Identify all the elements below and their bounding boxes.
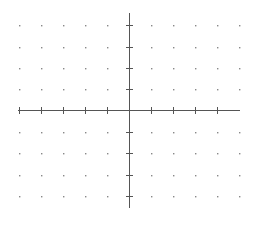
grid-dot bbox=[19, 153, 20, 154]
grid-dot bbox=[239, 89, 240, 90]
grid-dot bbox=[41, 89, 42, 90]
grid-dot bbox=[151, 196, 152, 197]
grid-dot bbox=[107, 47, 108, 48]
grid-dot bbox=[195, 196, 196, 197]
grid-dot bbox=[107, 196, 108, 197]
grid-dot bbox=[217, 175, 218, 176]
grid-dot bbox=[239, 153, 240, 154]
grid-dot bbox=[217, 89, 218, 90]
grid-dot bbox=[63, 153, 64, 154]
grid-dot bbox=[151, 25, 152, 26]
grid-dot bbox=[217, 47, 218, 48]
grid-dot bbox=[217, 132, 218, 133]
grid-dot bbox=[173, 196, 174, 197]
grid-dot bbox=[63, 89, 64, 90]
grid-dot bbox=[107, 89, 108, 90]
grid-dot bbox=[85, 132, 86, 133]
grid-dot bbox=[63, 132, 64, 133]
grid-dot bbox=[19, 132, 20, 133]
grid-dot bbox=[85, 89, 86, 90]
grid-dot bbox=[19, 175, 20, 176]
grid-dot bbox=[63, 196, 64, 197]
grid-dot bbox=[41, 25, 42, 26]
grid-dot bbox=[41, 132, 42, 133]
grid-dot bbox=[41, 47, 42, 48]
grid-dot bbox=[195, 153, 196, 154]
grid-dot bbox=[41, 153, 42, 154]
grid-dot bbox=[195, 132, 196, 133]
grid-dot bbox=[63, 47, 64, 48]
grid-dot bbox=[239, 175, 240, 176]
grid-dot bbox=[195, 47, 196, 48]
grid-dot bbox=[19, 89, 20, 90]
grid-dot bbox=[195, 89, 196, 90]
grid-dot bbox=[173, 68, 174, 69]
grid-dot bbox=[41, 68, 42, 69]
grid-dot bbox=[195, 175, 196, 176]
grid-dot bbox=[151, 47, 152, 48]
grid-dot bbox=[85, 153, 86, 154]
grid-dot bbox=[239, 132, 240, 133]
grid-dot bbox=[19, 68, 20, 69]
grid-dot bbox=[63, 175, 64, 176]
grid-dot bbox=[63, 25, 64, 26]
grid-dot bbox=[151, 175, 152, 176]
grid-dot bbox=[173, 153, 174, 154]
grid-dot bbox=[173, 132, 174, 133]
grid-dot bbox=[217, 153, 218, 154]
grid-dot bbox=[173, 25, 174, 26]
grid-dot bbox=[107, 132, 108, 133]
grid-dot bbox=[217, 68, 218, 69]
grid-dot bbox=[107, 68, 108, 69]
grid-dot bbox=[41, 175, 42, 176]
grid-dot bbox=[195, 68, 196, 69]
grid-dot bbox=[239, 47, 240, 48]
grid-dot bbox=[239, 25, 240, 26]
grid-dot bbox=[173, 89, 174, 90]
grid-dot bbox=[151, 89, 152, 90]
grid-dot bbox=[173, 47, 174, 48]
grid-dot bbox=[107, 153, 108, 154]
grid-dot bbox=[239, 196, 240, 197]
coordinate-plane bbox=[0, 0, 253, 226]
grid-dot bbox=[85, 196, 86, 197]
grid-dot bbox=[85, 175, 86, 176]
grid-dot bbox=[63, 68, 64, 69]
grid-dot bbox=[151, 132, 152, 133]
grid-dot bbox=[85, 47, 86, 48]
grid-dot bbox=[19, 25, 20, 26]
grid-dot bbox=[195, 25, 196, 26]
grid-dot bbox=[85, 68, 86, 69]
grid-dot bbox=[41, 196, 42, 197]
grid-dot bbox=[85, 25, 86, 26]
grid-dot bbox=[239, 68, 240, 69]
grid-dot bbox=[19, 47, 20, 48]
grid-dot bbox=[217, 196, 218, 197]
grid-dot bbox=[151, 68, 152, 69]
grid-dot bbox=[19, 196, 20, 197]
grid-dot bbox=[217, 25, 218, 26]
grid-dot bbox=[107, 175, 108, 176]
grid-dot bbox=[107, 25, 108, 26]
grid-dot bbox=[173, 175, 174, 176]
grid-dot bbox=[151, 153, 152, 154]
